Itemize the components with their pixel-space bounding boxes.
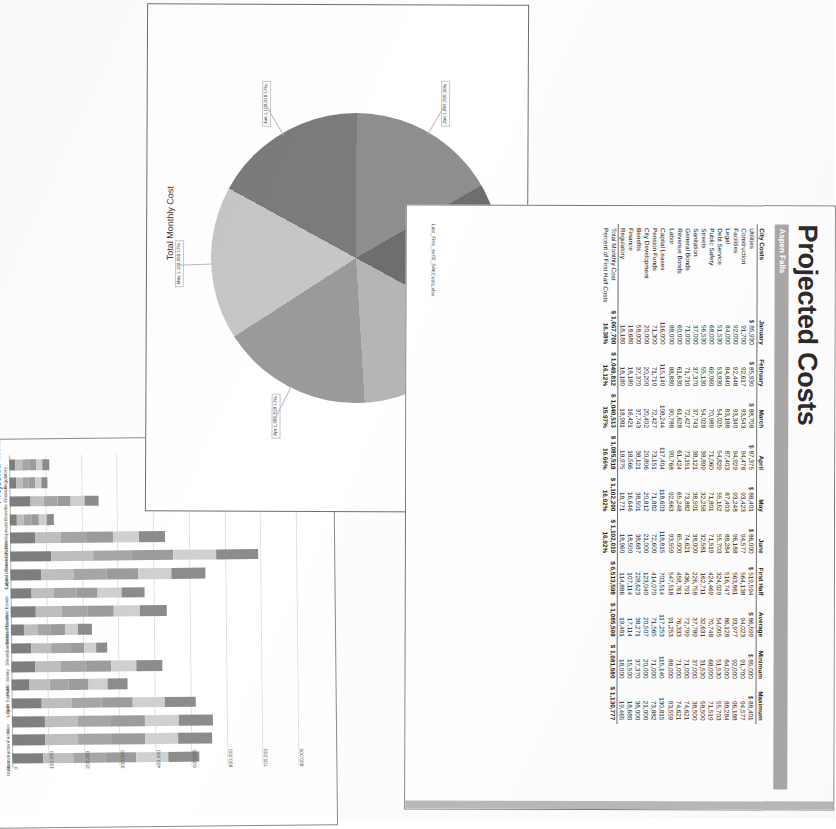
projected-costs-worksheet-panel[interactable]: Projected Costs Aspen Falls City CostsJa… (404, 204, 836, 810)
table-cell[interactable]: 87,403 (724, 474, 732, 516)
table-cell[interactable]: 20,000 (642, 641, 650, 683)
table-cell[interactable]: 68,000 (708, 307, 716, 349)
table-cell[interactable]: 55,152 (716, 474, 724, 516)
table-cell[interactable] (601, 682, 609, 724)
table-cell[interactable]: 71,000 (675, 641, 683, 683)
table-cell[interactable]: 16.38% (602, 307, 610, 349)
table-cell[interactable]: $ 85,000 (747, 641, 756, 683)
bar-stack[interactable] (12, 696, 196, 709)
bar-segment[interactable] (12, 698, 42, 709)
table-row[interactable]: Sanitation37,00037,37037,74338,12138,501… (691, 224, 700, 724)
bar-segment[interactable] (76, 587, 98, 598)
bar-stack[interactable] (11, 660, 162, 672)
bar-segment[interactable] (145, 733, 179, 744)
table-cell[interactable]: $ 88,401 (748, 474, 757, 516)
bar-segment[interactable] (178, 714, 212, 725)
table-cell[interactable]: 93,559 (666, 683, 674, 725)
table-cell[interactable]: 92,617 (740, 349, 748, 391)
table-cell[interactable]: 458,761 (675, 557, 683, 599)
table-cell[interactable]: 58,000 (635, 307, 643, 349)
table-cell[interactable]: 72,427 (683, 390, 691, 432)
table-cell[interactable]: 55,703 (715, 516, 723, 558)
table-cell[interactable]: 74,621 (683, 516, 691, 558)
table-cell[interactable]: 61,630 (675, 349, 683, 391)
table-cell[interactable]: 94,023 (739, 599, 747, 641)
table-cell[interactable]: 563,861 (731, 557, 739, 599)
table-row[interactable]: Benefits58,00037,37037,74338,12138,50138… (634, 224, 643, 724)
table-cell[interactable]: 38,000 (634, 683, 642, 725)
table-cell[interactable]: 162,711 (699, 557, 707, 599)
table-cell[interactable]: $ 519,594 (748, 558, 757, 600)
bar-segment[interactable] (42, 698, 72, 709)
table-cell[interactable]: 87,403 (724, 432, 732, 474)
table-cell[interactable]: 71,000 (650, 641, 658, 683)
bar-stack[interactable] (10, 568, 205, 581)
table-cell[interactable]: $ 1,081,580 (609, 641, 618, 683)
table-cell[interactable]: 71,519 (707, 683, 715, 725)
table-row[interactable]: Revenue Bonds60,00061,63061,62861,42465,… (675, 224, 684, 724)
bar-segment[interactable] (57, 496, 71, 507)
bar-segment[interactable] (137, 660, 163, 671)
bar-segment[interactable] (45, 734, 78, 745)
table-cell[interactable]: 71,882 (651, 474, 659, 516)
bar-segment[interactable] (17, 515, 24, 526)
table-cell[interactable]: 16.12% (602, 348, 610, 390)
bar-segment[interactable] (10, 551, 52, 562)
bar-segment[interactable] (11, 643, 31, 654)
table-row[interactable]: Labor88,00088,88090,78890,76892,66393,55… (666, 224, 675, 724)
table-cell[interactable]: 564,138 (740, 558, 748, 600)
bar-segment[interactable] (44, 496, 58, 507)
table-cell[interactable]: 71,801 (707, 474, 715, 516)
table-cell[interactable]: $ 1,067,700 (610, 307, 619, 349)
bar-segment[interactable] (36, 606, 62, 617)
bar-segment[interactable] (62, 606, 88, 617)
table-cell[interactable]: 108,244 (659, 390, 667, 432)
table-cell[interactable]: 18,566 (627, 432, 635, 474)
table-cell[interactable]: $ 1,040,513 (610, 390, 619, 432)
table-cell[interactable]: 92,000 (731, 641, 739, 683)
bar-segment[interactable] (88, 679, 108, 690)
table-cell[interactable]: 38,687 (634, 515, 642, 557)
bar-segment[interactable] (41, 478, 48, 489)
table-cell[interactable]: 18,180 (627, 348, 635, 390)
table-cell[interactable]: 38,899 (699, 432, 707, 474)
table-cell[interactable]: 18,981 (618, 390, 627, 432)
table-cell[interactable]: 72,600 (651, 516, 659, 558)
bar-segment[interactable] (37, 624, 51, 635)
bar-segment[interactable] (52, 550, 93, 561)
table-cell[interactable]: 88,880 (667, 348, 675, 390)
table-cell[interactable]: 32,631 (699, 599, 707, 641)
table-cell[interactable]: 18,680 (627, 307, 635, 349)
bar-segment[interactable] (31, 643, 51, 654)
table-cell[interactable]: 73,882 (683, 474, 691, 516)
table-cell[interactable]: 84,000 (724, 307, 732, 349)
table-cell[interactable]: 547,518 (667, 557, 675, 599)
bar-stack[interactable] (11, 587, 145, 599)
table-cell[interactable]: 436,791 (683, 557, 691, 599)
table-cell[interactable]: 703,514 (659, 557, 667, 599)
table-cell[interactable]: 54,028 (700, 390, 708, 432)
table-cell[interactable]: 20,402 (643, 390, 651, 432)
bar-stack[interactable] (11, 642, 107, 654)
table-cell[interactable]: 88,284 (724, 516, 732, 558)
table-cell[interactable]: $ 1,085,598 (609, 599, 618, 641)
bar-segment[interactable] (32, 588, 54, 599)
table-cell[interactable]: 73,151 (651, 432, 659, 474)
table-cell[interactable]: 226,758 (691, 557, 699, 599)
bar-stack[interactable] (10, 514, 54, 525)
table-cell[interactable]: 70,748 (707, 599, 715, 641)
table-cell[interactable]: 117,404 (659, 432, 667, 474)
table-cell[interactable]: 19,465 (617, 682, 626, 724)
bar-segment[interactable] (111, 660, 137, 671)
table-cell[interactable]: $ 1,085,518 (609, 432, 618, 474)
table-cell[interactable]: 71,710 (683, 349, 691, 391)
bar-segment[interactable] (111, 733, 145, 744)
table-cell[interactable]: 228,623 (634, 557, 642, 599)
table-cell[interactable]: $ 1,102,019 (609, 515, 618, 557)
table-cell[interactable]: 38,501 (635, 474, 643, 516)
bar-segment[interactable] (133, 697, 164, 708)
table-cell[interactable]: $ 85,930 (748, 307, 757, 349)
bar-segment[interactable] (46, 514, 54, 525)
bar-stack[interactable] (9, 478, 47, 489)
table-row[interactable]: Pension Funds71,30071,71072,42773,15171,… (650, 224, 659, 724)
